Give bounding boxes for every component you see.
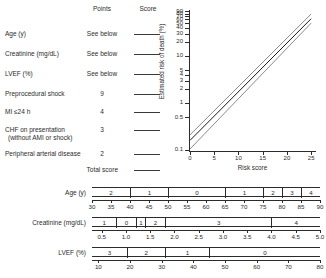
variable-points-value: See below bbox=[82, 50, 122, 57]
scale-segment[interactable]: 4 bbox=[271, 218, 320, 228]
scale-axis-tick-label: 10 bbox=[88, 263, 108, 270]
chart-x-tick-label: 20 bbox=[279, 155, 295, 161]
scale-segment[interactable]: 1 bbox=[92, 218, 116, 228]
scale-segment[interactable]: 1 bbox=[225, 188, 263, 198]
chart-x-tick-label: 0 bbox=[182, 155, 198, 161]
scale-axis-tick-label: 3.0 bbox=[213, 233, 233, 240]
chart-y-tick-mark bbox=[185, 150, 189, 151]
chart-y-tick-mark bbox=[185, 16, 189, 17]
column-header-points: Points bbox=[82, 5, 122, 12]
chart-y-tick-mark bbox=[185, 89, 189, 90]
scale-segment[interactable]: 0 bbox=[168, 188, 225, 198]
chart-x-tick-label: 15 bbox=[255, 155, 271, 161]
variable-label: Peripheral arterial disease bbox=[5, 150, 81, 158]
scale-segment[interactable]: 2 bbox=[127, 248, 165, 258]
scale-segment[interactable]: 2 bbox=[263, 188, 282, 198]
scale-axis-tick-label: 40 bbox=[120, 203, 140, 210]
variable-label: Creatinine (mg/dL) bbox=[5, 50, 59, 58]
variable-row: CHF on presentation(without AMI or shock… bbox=[0, 126, 170, 138]
chart-y-tick-mark bbox=[185, 70, 189, 71]
scale-track: 210123430354045505560657075808590 bbox=[92, 186, 320, 212]
scale-axis-tick-label: 1.5 bbox=[140, 233, 160, 240]
chart-y-tick-label: 10 bbox=[176, 52, 183, 59]
scale-axis-tick-label: 60 bbox=[247, 263, 267, 270]
chart-x-tick-label: 25 bbox=[303, 155, 319, 161]
chart-plot-area bbox=[190, 10, 316, 150]
scale-axis-tick-label: 2.0 bbox=[164, 233, 184, 240]
chart-y-tick-mark bbox=[185, 56, 189, 57]
scale-axis-tick-label: 40 bbox=[183, 263, 203, 270]
variable-points-value: 3 bbox=[82, 126, 122, 133]
scale-axis-tick-label: 30 bbox=[152, 263, 172, 270]
variable-row: Preprocedural shock9 bbox=[0, 90, 170, 102]
scale-segment[interactable]: 1 bbox=[130, 188, 168, 198]
chart-series-line bbox=[190, 14, 311, 135]
chart-y-tick-mark bbox=[185, 19, 189, 20]
chart-series-line bbox=[190, 23, 311, 149]
scale-segment[interactable]: 4 bbox=[301, 188, 320, 198]
scale-axis-tick-label: 75 bbox=[253, 203, 273, 210]
variable-sublabel: (without AMI or shock) bbox=[5, 134, 72, 142]
scale-segment[interactable]: 0 bbox=[116, 218, 135, 228]
chart-x-axis-title: Risk score bbox=[189, 164, 316, 171]
scale-segment[interactable]: 3 bbox=[165, 218, 272, 228]
scale-segment[interactable]: 3 bbox=[92, 248, 127, 258]
variable-row: Peripheral arterial disease2 bbox=[0, 150, 170, 162]
variable-row: MI ≤24 h4 bbox=[0, 108, 170, 120]
chart-series-line bbox=[190, 19, 311, 141]
variable-label: MI ≤24 h bbox=[5, 108, 30, 116]
scale-axis-tick-label: 50 bbox=[215, 263, 235, 270]
scale-track: 1012340.51.01.52.02.53.03.54.04.55.0 bbox=[92, 216, 320, 242]
scale-axis-tick-label: 70 bbox=[278, 263, 298, 270]
scale-axis-tick-label: 70 bbox=[234, 203, 254, 210]
variable-label: LVEF (%) bbox=[5, 70, 33, 78]
scale-segment[interactable]: 2 bbox=[92, 188, 130, 198]
scale-axis-tick-label: 4.0 bbox=[261, 233, 281, 240]
variable-row: Age (y)See below bbox=[0, 30, 170, 42]
scale-segment[interactable]: 1 bbox=[136, 218, 146, 228]
chart-y-tick-label: 5 bbox=[180, 67, 183, 74]
chart-y-tick-mark bbox=[185, 34, 189, 35]
scale-axis-tick-label: 5.0 bbox=[310, 233, 326, 240]
scale-segment-row: 3210 bbox=[92, 247, 320, 257]
scale-axis-tick-label: 1.0 bbox=[116, 233, 136, 240]
chart-x-axis-line bbox=[189, 151, 316, 152]
scale-axis-tick-label: 50 bbox=[158, 203, 178, 210]
scale-panel-age: Age (y)210123430354045505560657075808590 bbox=[0, 186, 326, 216]
variable-row: Total score bbox=[0, 166, 170, 178]
scale-segment[interactable]: 2 bbox=[145, 218, 164, 228]
variable-label: Age (y) bbox=[5, 30, 26, 38]
variable-label: CHF on presentation(without AMI or shock… bbox=[5, 126, 72, 142]
chart-y-tick-label: 20 bbox=[176, 38, 183, 45]
scale-axis-tick-label: 45 bbox=[139, 203, 159, 210]
scale-panel-lvef: LVEF (%)32101020304050607080 bbox=[0, 246, 326, 276]
chart-y-tick-mark bbox=[185, 42, 189, 43]
chart-y-tick-label: 1 bbox=[180, 99, 183, 106]
scale-segment[interactable]: 0 bbox=[209, 248, 320, 258]
scale-axis-tick-label: 20 bbox=[120, 263, 140, 270]
scale-axis-tick-label: 65 bbox=[215, 203, 235, 210]
chart-y-axis-title: Estimated risk of death (%) bbox=[158, 7, 165, 117]
scale-axis-tick-label: 90 bbox=[310, 203, 326, 210]
scale-axis-tick-label: 3.5 bbox=[237, 233, 257, 240]
scale-axis-tick-label: 85 bbox=[291, 203, 311, 210]
variable-row: LVEF (%)See below bbox=[0, 70, 170, 82]
chart-y-tick-mark bbox=[185, 11, 189, 12]
variable-points-value: 9 bbox=[82, 90, 122, 97]
scale-axis-line bbox=[92, 260, 320, 261]
scale-axis-tick-label: 35 bbox=[101, 203, 121, 210]
variable-label: Preprocedural shock bbox=[5, 90, 65, 98]
chart-y-tick-mark bbox=[185, 103, 189, 104]
variable-points-value: See below bbox=[82, 30, 122, 37]
chart-y-tick-mark bbox=[185, 28, 189, 29]
scale-segment[interactable]: 3 bbox=[282, 188, 301, 198]
variable-points-value: 2 bbox=[82, 150, 122, 157]
scale-segment[interactable]: 1 bbox=[165, 248, 209, 258]
chart-y-tick-mark bbox=[185, 81, 189, 82]
chart-y-tick-label: 0.5 bbox=[175, 114, 183, 121]
scale-axis-tick-label: 0.5 bbox=[92, 233, 112, 240]
scale-axis-tick-label: 4.5 bbox=[286, 233, 306, 240]
scale-axis-tick-label: 80 bbox=[310, 263, 326, 270]
scale-track: 32101020304050607080 bbox=[92, 246, 320, 272]
chart-y-tick-mark bbox=[185, 75, 189, 76]
